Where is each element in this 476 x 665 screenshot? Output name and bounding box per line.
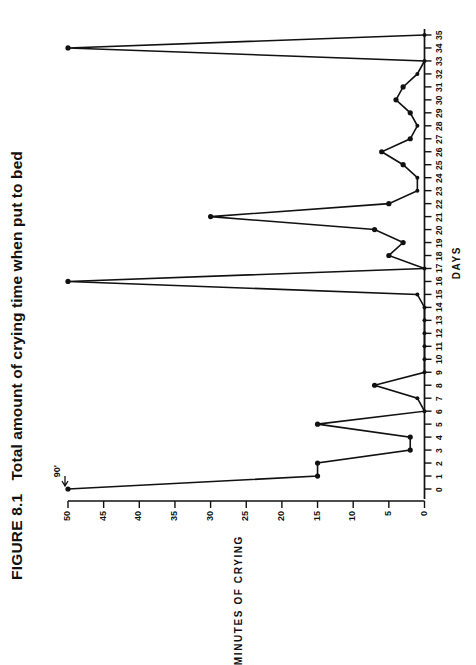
offscale-annotation-label: 90' — [52, 465, 62, 477]
data-point[interactable] — [65, 279, 70, 284]
y-tick-label: 50 — [62, 511, 75, 521]
x-tick-label: 11 — [434, 339, 444, 354]
data-point[interactable] — [379, 149, 384, 154]
x-tick-label: 13 — [434, 313, 444, 328]
data-point[interactable] — [401, 240, 406, 245]
y-tick-label: 5 — [383, 511, 396, 516]
data-point[interactable] — [372, 383, 377, 388]
data-point[interactable] — [386, 201, 391, 206]
x-tick-label: 6 — [434, 404, 444, 419]
y-tick-label: 20 — [276, 511, 289, 521]
y-tick-label: 25 — [240, 511, 253, 521]
data-point[interactable] — [423, 266, 427, 270]
x-tick-label: 3 — [434, 443, 444, 458]
y-tick-label: 35 — [169, 511, 182, 521]
data-point[interactable] — [423, 33, 427, 37]
data-point[interactable] — [65, 45, 70, 50]
x-tick-label: 10 — [434, 352, 444, 367]
data-point[interactable] — [208, 214, 213, 219]
data-point[interactable] — [423, 318, 427, 322]
data-point[interactable] — [386, 253, 391, 258]
x-tick-label: 32 — [434, 67, 444, 82]
y-tick-label: 40 — [133, 511, 146, 521]
y-axis-title: MINUTES OF CRYING — [233, 535, 244, 665]
data-point[interactable] — [415, 396, 419, 400]
data-point[interactable] — [315, 460, 320, 465]
data-point[interactable] — [415, 72, 419, 76]
data-point[interactable] — [415, 124, 419, 128]
x-axis-title: DAYS — [451, 246, 462, 279]
x-tick-label: 31 — [434, 80, 444, 95]
axes-group — [62, 29, 432, 508]
x-tick-label: 5 — [434, 417, 444, 432]
data-point[interactable] — [415, 189, 419, 193]
data-point[interactable] — [423, 357, 427, 361]
x-tick-label: 8 — [434, 378, 444, 393]
data-point[interactable] — [423, 305, 427, 309]
x-tick-label: 27 — [434, 132, 444, 147]
x-tick-label: 9 — [434, 365, 444, 380]
data-point[interactable] — [408, 447, 413, 452]
y-tick-label: 15 — [312, 511, 325, 521]
crying-time-line — [68, 35, 425, 489]
x-tick-label: 12 — [434, 326, 444, 341]
data-point[interactable] — [423, 59, 427, 63]
y-tick-label: 0 — [419, 511, 432, 516]
data-point[interactable] — [401, 84, 406, 89]
data-point[interactable] — [415, 176, 419, 180]
data-point[interactable] — [372, 227, 377, 232]
data-point[interactable] — [315, 422, 320, 427]
x-tick-label: 29 — [434, 106, 444, 121]
data-point[interactable] — [415, 292, 419, 296]
data-point[interactable] — [423, 331, 427, 335]
y-tick-label: 10 — [347, 511, 360, 521]
x-tick-label: 14 — [434, 300, 444, 315]
x-tick-label: 7 — [434, 391, 444, 406]
x-tick-label: 30 — [434, 93, 444, 108]
x-tick-label: 35 — [434, 28, 444, 43]
x-tick-label: 34 — [434, 41, 444, 56]
x-tick-label: 4 — [434, 430, 444, 445]
data-point[interactable] — [401, 162, 406, 167]
y-tick-label: 45 — [98, 511, 111, 521]
x-tick-label: 33 — [434, 54, 444, 69]
x-tick-label: 2 — [434, 456, 444, 471]
data-point[interactable] — [408, 435, 413, 440]
data-series-group — [65, 33, 426, 492]
data-point[interactable] — [315, 473, 320, 478]
data-point[interactable] — [408, 136, 413, 141]
x-tick-label: 28 — [434, 119, 444, 134]
data-point[interactable] — [423, 370, 427, 374]
offscale-arrow-icon — [62, 476, 68, 486]
data-point[interactable] — [423, 409, 427, 413]
data-point[interactable] — [423, 344, 427, 348]
data-point[interactable] — [393, 97, 398, 102]
data-point[interactable] — [65, 486, 70, 491]
y-tick-label: 30 — [205, 511, 218, 521]
x-tick-label: 15 — [434, 287, 444, 302]
x-tick-label: 0 — [434, 482, 444, 497]
data-point[interactable] — [408, 110, 413, 115]
x-tick-label: 1 — [434, 469, 444, 484]
x-tick-label: 16 — [434, 274, 444, 289]
